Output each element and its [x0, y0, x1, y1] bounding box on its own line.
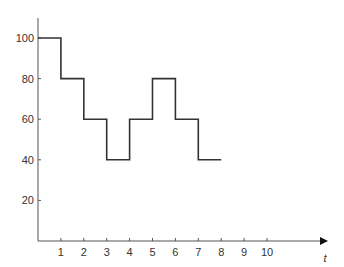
y-tick-label: 40	[22, 154, 34, 166]
x-axis-arrow-icon	[320, 237, 328, 245]
y-tick-label: 60	[22, 113, 34, 125]
y-tick-label: 20	[22, 194, 34, 206]
axes	[38, 18, 328, 245]
tick-labels: 1234567891020406080100t	[16, 32, 328, 264]
x-axis-label: t	[323, 252, 327, 264]
x-tick-label: 8	[218, 246, 224, 258]
x-tick-label: 4	[127, 246, 133, 258]
step-chart: 1234567891020406080100t	[0, 0, 344, 267]
step-line	[38, 38, 221, 160]
x-tick-label: 6	[172, 246, 178, 258]
x-tick-label: 7	[195, 246, 201, 258]
y-tick-label: 100	[16, 32, 34, 44]
x-tick-label: 9	[241, 246, 247, 258]
x-tick-label: 1	[58, 246, 64, 258]
x-tick-label: 2	[81, 246, 87, 258]
x-tick-label: 3	[104, 246, 110, 258]
x-tick-label: 10	[261, 246, 273, 258]
x-tick-label: 5	[149, 246, 155, 258]
y-tick-label: 80	[22, 73, 34, 85]
step-series	[38, 38, 221, 160]
